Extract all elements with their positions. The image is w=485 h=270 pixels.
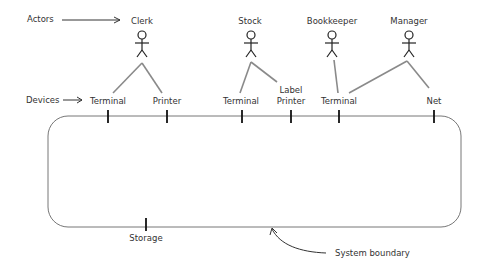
actors-arrow (62, 17, 120, 23)
device-label-line1: Label (280, 85, 303, 95)
system-boundary-arrow (270, 228, 326, 253)
connection-clerk-terminal (113, 63, 142, 93)
device-label: Printer (153, 96, 182, 106)
device-label: Terminal (222, 96, 259, 106)
storage-label: Storage (129, 233, 162, 243)
connection-manager-terminal (349, 61, 407, 93)
actor-name: Clerk (131, 16, 153, 26)
actor-name: Bookkeeper (307, 16, 358, 26)
stick-figure-icon (402, 31, 416, 57)
stick-figure-icon (135, 31, 149, 57)
connection-stock-terminal (240, 62, 251, 93)
device-label: Net (427, 96, 443, 106)
actor-manager: Manager (390, 16, 428, 57)
connection-clerk-printer (142, 63, 162, 93)
connection-manager-net (407, 61, 429, 88)
stick-figure-icon (325, 31, 339, 57)
actor-name: Stock (238, 16, 262, 26)
devices-row-label: Devices (26, 95, 60, 105)
system-boundary (48, 116, 461, 227)
actor-clerk: Clerk (131, 16, 153, 57)
devices-arrow (63, 97, 82, 103)
stick-figure-icon (244, 31, 258, 57)
device-label: Printer (277, 96, 306, 106)
actor-bookkeeper: Bookkeeper (307, 16, 358, 57)
actors-row-label: Actors (27, 14, 54, 24)
connection-stock-label-printer (251, 62, 277, 82)
device-label: Terminal (320, 96, 357, 106)
system-boundary-label: System boundary (335, 248, 410, 258)
actor-name: Manager (390, 16, 428, 26)
use-case-diagram: Actors Devices Clerk Stock Bookkeeper (0, 0, 485, 270)
device-label: Terminal (89, 96, 126, 106)
actor-stock: Stock (238, 16, 262, 57)
connection-bookkeeper-terminal (334, 60, 338, 93)
